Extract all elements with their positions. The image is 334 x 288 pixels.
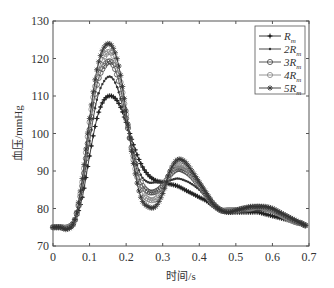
y-axis-label: 血压/mmHg <box>11 105 24 161</box>
legend: Rm2Rm3Rm4Rm5Rm <box>255 26 305 97</box>
y-tick-label: 120 <box>31 52 49 66</box>
x-tick-label: 0.3 <box>155 250 170 264</box>
x-tick-label: 0 <box>50 250 56 264</box>
x-tick-label: 0.4 <box>192 250 207 264</box>
y-tick-label: 110 <box>31 89 49 103</box>
x-tick-label: 0.2 <box>119 250 134 264</box>
y-tick-label: 90 <box>37 164 49 178</box>
y-tick-label: 70 <box>37 239 49 253</box>
x-tick-label: 0.7 <box>302 250 317 264</box>
x-tick-label: 0.5 <box>228 250 243 264</box>
line-chart: 00.10.20.30.40.50.60.7708090100110120130… <box>0 0 334 288</box>
x-tick-label: 0.6 <box>265 250 280 264</box>
x-axis-label: 时间/s <box>166 270 195 282</box>
y-tick-label: 130 <box>31 14 49 28</box>
y-tick-label: 100 <box>31 127 49 141</box>
x-tick-label: 0.1 <box>82 250 97 264</box>
y-tick-label: 80 <box>37 202 49 216</box>
